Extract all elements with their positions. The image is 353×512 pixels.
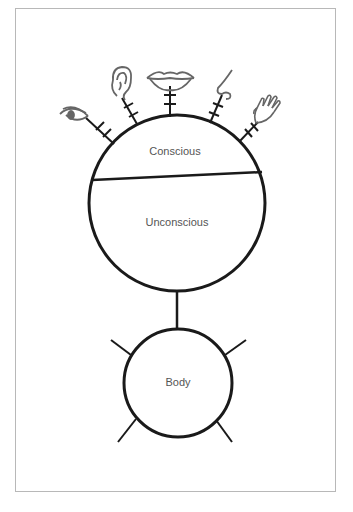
conscious-divider bbox=[92, 172, 262, 180]
body-limb bbox=[118, 419, 136, 442]
body-limb bbox=[225, 340, 246, 355]
eye-icon bbox=[60, 107, 88, 120]
ear-icon bbox=[112, 67, 131, 100]
body-label: Body bbox=[165, 376, 191, 388]
conscious-label: Conscious bbox=[149, 145, 201, 157]
nose-icon bbox=[218, 70, 233, 99]
mind-body-diagram: Conscious Unconscious Body bbox=[0, 0, 353, 512]
body-limb bbox=[111, 340, 131, 355]
body-limb bbox=[216, 420, 232, 442]
unconscious-label: Unconscious bbox=[146, 216, 209, 228]
hand-icon bbox=[254, 95, 280, 123]
